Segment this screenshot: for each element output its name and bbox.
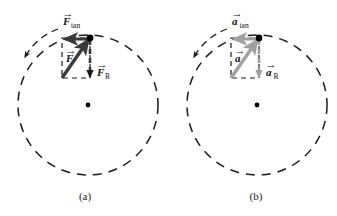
panel-b-caption: (b) xyxy=(250,190,263,203)
panel-b-particle-dot xyxy=(256,35,263,42)
figure-background xyxy=(0,0,337,216)
panel-a-particle-dot xyxy=(87,35,94,42)
panel-b-radial-label: a xyxy=(266,66,272,78)
panel-a-radial-subscript: R xyxy=(105,72,110,81)
panel-a-caption: (a) xyxy=(79,190,92,203)
panel-b-center-dot xyxy=(255,103,260,108)
panel-a-resultant-label: F xyxy=(65,52,74,64)
panel-a-radial-label: F xyxy=(96,66,105,78)
panel-b-radial-subscript: R xyxy=(274,72,279,81)
circular-motion-figure: → F tan → F → F R (a) xyxy=(0,0,337,216)
figure-root: → F tan → F → F R (a) xyxy=(0,0,337,216)
panel-a-tangential-subscript: tan xyxy=(71,21,80,30)
panel-b-resultant-label: a xyxy=(235,52,241,64)
panel-a-center-dot xyxy=(86,103,91,108)
panel-b-tangential-label: a xyxy=(232,15,238,27)
panel-b-tangential-subscript: tan xyxy=(240,21,249,30)
panel-a-tangential-label: F xyxy=(62,15,71,27)
